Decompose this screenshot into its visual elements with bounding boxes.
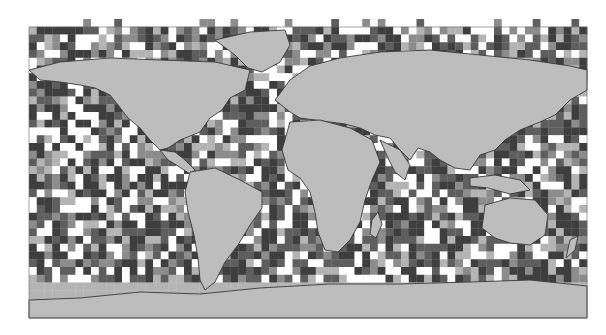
world-grid-map: [0, 0, 606, 335]
